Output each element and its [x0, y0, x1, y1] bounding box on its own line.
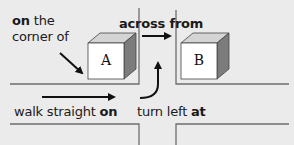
- label-across-from-bold: across from: [119, 16, 203, 31]
- label-the: the: [30, 13, 55, 28]
- cube-a-label: A: [88, 52, 124, 68]
- prepositions-of-place-diagram: A B on the corner of across from walk st…: [0, 0, 294, 145]
- label-turn-left: turn left: [137, 104, 191, 119]
- arrow-corner-icon: [60, 53, 82, 73]
- label-on-bold: on: [12, 13, 30, 28]
- label-turn-left-at: turn left at: [137, 104, 206, 120]
- street-edge-lower-right: [176, 124, 289, 145]
- label-at-bold: at: [191, 104, 206, 119]
- label-on-bold-2: on: [100, 104, 118, 119]
- label-across-from: across from: [119, 16, 203, 32]
- street-edge-lower-left: [10, 124, 139, 145]
- label-walk-straight-on: walk straight on: [14, 104, 117, 120]
- cube-b-label: B: [181, 52, 217, 68]
- label-on-the-corner-of: on the corner of: [12, 13, 69, 45]
- label-walk-straight: walk straight: [14, 104, 100, 119]
- label-corner-of: corner of: [12, 29, 69, 45]
- arrow-turn-icon: [140, 63, 158, 98]
